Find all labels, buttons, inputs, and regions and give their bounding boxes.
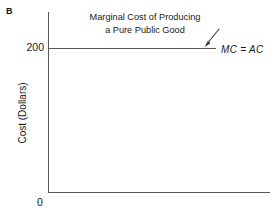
chart-figure: B Marginal Cost of Producing a Pure Publ…: [0, 0, 279, 216]
panel-label: B: [6, 7, 13, 16]
chart-title-line-1: Marginal Cost of Producing: [70, 11, 220, 24]
mc-ac-curve-label: MC = AC: [221, 43, 264, 56]
y-axis-title: Cost (Dollars): [17, 53, 29, 173]
y-axis-line: [48, 12, 49, 193]
origin-tick-label: 0: [30, 196, 50, 209]
mc-ac-curve: [48, 48, 216, 49]
x-axis-line: [48, 192, 270, 193]
